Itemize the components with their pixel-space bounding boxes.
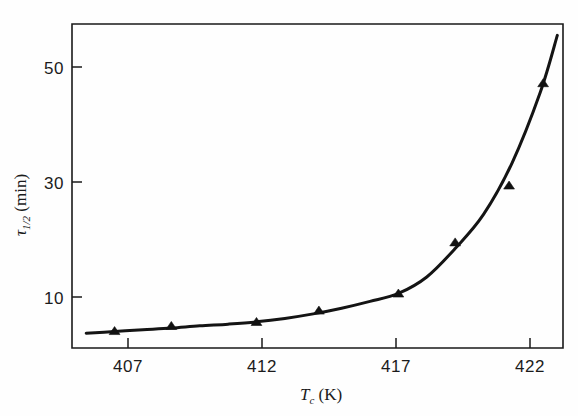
y-ticklabel-10: 10 [44,289,64,308]
data-point-marker [538,79,549,87]
y-ticklabel-50: 50 [44,59,64,78]
data-markers [109,79,548,335]
plot-frame [72,24,563,348]
y-axis-unit: (min) [11,174,30,212]
x-axis-ticklabels: 407 412 417 422 [113,357,545,376]
chart-canvas: 50 30 10 407 412 417 422 Tc (K) [0,0,578,416]
data-point-marker [166,321,177,329]
y-axis-title: τ1/2 (min) [11,174,32,236]
x-ticklabel-412: 412 [247,357,277,376]
x-axis-ticks [128,338,530,348]
y-axis-subscript: 1/2 [20,215,32,230]
x-ticklabel-422: 422 [515,357,545,376]
x-ticklabel-407: 407 [113,357,143,376]
data-point-marker [314,306,325,314]
data-point-marker [450,238,461,246]
fit-curve [86,35,557,333]
x-axis-unit: (K) [319,385,343,404]
svg-text:τ1/2 (min): τ1/2 (min) [11,174,32,236]
data-point-marker [504,181,515,189]
x-axis-title: Tc (K) [300,385,342,406]
svg-text:Tc (K): Tc (K) [300,385,342,406]
y-axis-ticks [72,67,82,297]
x-ticklabel-417: 417 [381,357,411,376]
figure-panel: 50 30 10 407 412 417 422 Tc (K) [0,0,578,416]
y-axis-ticklabels: 50 30 10 [44,59,64,308]
y-ticklabel-30: 30 [44,174,64,193]
